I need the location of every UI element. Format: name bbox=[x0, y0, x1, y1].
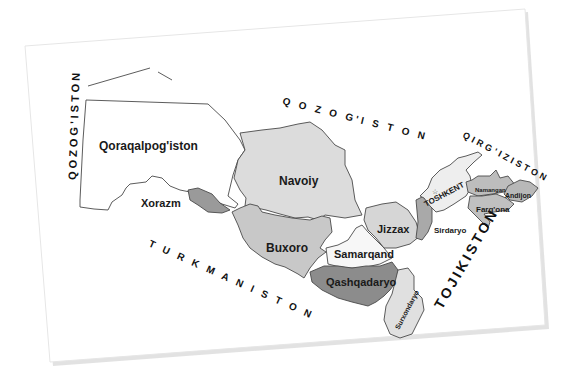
label-navoiy: Navoiy bbox=[279, 174, 319, 188]
capital-star-icon: ☆ bbox=[432, 188, 438, 195]
label-xorazm: Xorazm bbox=[141, 197, 181, 209]
label-jizzax: Jizzax bbox=[377, 223, 410, 235]
label-qoraqalpogiston: Qoraqalpog'iston bbox=[99, 139, 198, 153]
label-qashqadaryo: Qashqadaryo bbox=[326, 276, 397, 288]
label-fargona: Farg'ona bbox=[476, 205, 510, 214]
uzbekistan-map: QOZOG'ISTON Q O Z O G'I S T O N QIRG'IZI… bbox=[0, 0, 569, 380]
label-namangan: Namangan bbox=[475, 187, 506, 193]
label-buxoro: Buxoro bbox=[266, 241, 308, 255]
label-samarqand: Samarqand bbox=[334, 248, 394, 260]
label-sirdaryo: Sirdaryo bbox=[434, 226, 467, 235]
label-andijon: Andijon bbox=[505, 192, 531, 200]
